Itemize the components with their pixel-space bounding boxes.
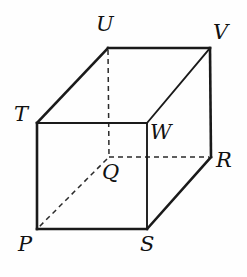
visible-edges-group xyxy=(37,48,211,229)
vertex-label-V: V xyxy=(213,22,228,43)
cube-figure: U V T W Q R P S xyxy=(0,0,247,277)
vertex-label-R: R xyxy=(216,150,232,171)
edge-Q-P-line xyxy=(39,159,107,227)
vertex-label-T: T xyxy=(14,104,28,125)
edge-W-V-line xyxy=(147,48,210,123)
vertex-label-U: U xyxy=(96,14,114,35)
edge-S-R-line xyxy=(147,157,211,229)
vertex-label-P: P xyxy=(18,234,32,255)
edge-V-R-line xyxy=(210,48,211,157)
edge-U-Q-line xyxy=(108,50,109,157)
vertex-label-W: W xyxy=(150,122,172,143)
vertex-label-S: S xyxy=(140,234,154,255)
cube-svg xyxy=(0,0,247,277)
edge-T-U-line xyxy=(37,48,108,123)
vertex-label-Q: Q xyxy=(102,162,119,183)
hidden-edges-group xyxy=(39,50,209,227)
